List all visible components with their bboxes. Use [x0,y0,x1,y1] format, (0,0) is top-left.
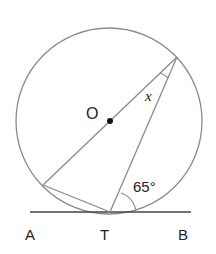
geometry-diagram: O x 65° A T B [0,0,216,254]
angle-arc-65 [121,193,136,212]
center-point [107,118,113,124]
angle-x-label: x [144,88,152,104]
point-t-label: T [100,226,109,243]
angle-65-label: 65° [133,178,156,195]
center-label: O [86,105,98,122]
angle-arc-x [160,73,168,78]
point-b-label: B [178,226,188,243]
point-a-label: A [25,226,35,243]
